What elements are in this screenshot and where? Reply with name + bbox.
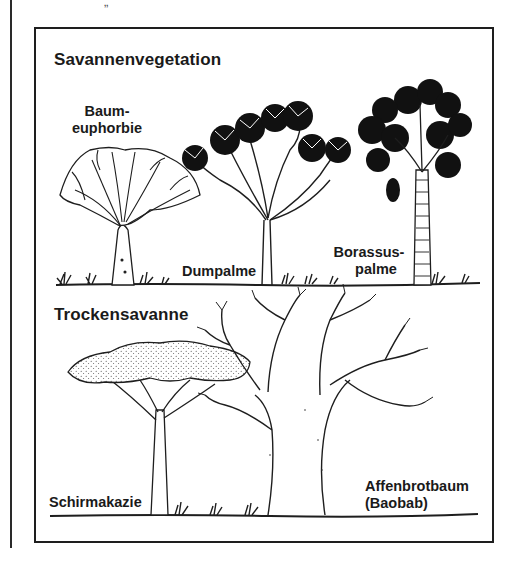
label-borassus-line1: Borassus- xyxy=(328,244,410,261)
label-doum-palm: Dumpalme xyxy=(182,263,256,280)
label-baobab-line2: (Baobab) xyxy=(365,495,469,512)
label-euphorbia-line1: Baum- xyxy=(52,103,162,120)
section-title-savanna: Savannenvegetation xyxy=(54,50,221,70)
euphorbia-tree-icon xyxy=(60,148,200,286)
label-baobab-line1: Affenbrotbaum xyxy=(365,478,469,495)
label-euphorbia-line2: euphorbie xyxy=(52,120,162,137)
label-borassus-palm: Borassus- palme xyxy=(328,244,410,278)
ground-line-dry-savanna xyxy=(50,514,478,517)
label-borassus-line2: palme xyxy=(328,261,410,278)
label-baobab: Affenbrotbaum (Baobab) xyxy=(365,478,469,512)
label-euphorbia: Baum- euphorbie xyxy=(52,103,162,137)
doum-palm-icon xyxy=(182,101,351,285)
section-title-dry-savanna: Trockensavanne xyxy=(54,305,189,325)
label-umbrella-acacia: Schirmakazie xyxy=(49,494,142,511)
umbrella-acacia-icon xyxy=(68,341,250,515)
